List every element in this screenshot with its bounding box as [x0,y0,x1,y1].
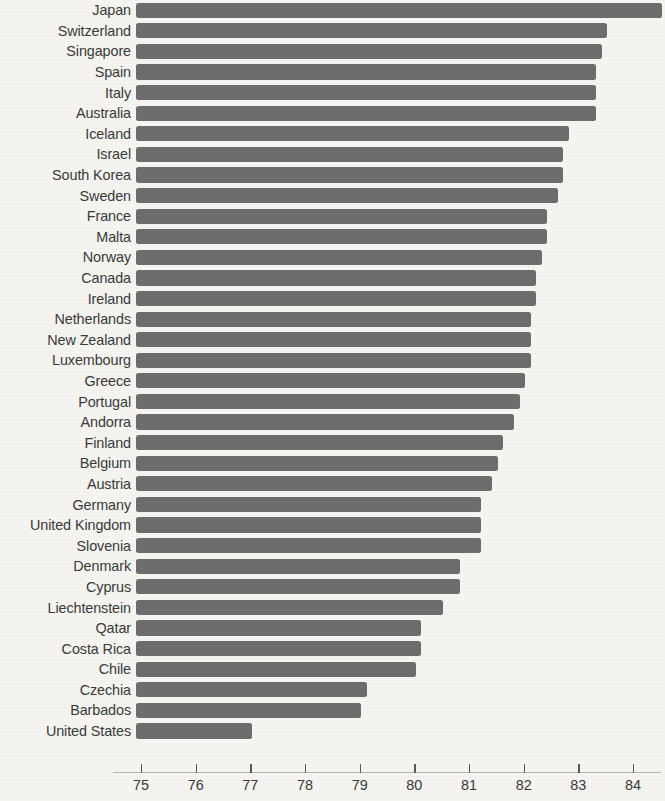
bar-track [136,659,665,680]
bar-fill [136,44,602,59]
bar-category-label: Japan [0,2,136,18]
bar-fill [136,332,531,347]
life-expectancy-bar-chart: JapanSwitzerlandSingaporeSpainItalyAustr… [0,0,665,801]
bar-track [136,494,665,515]
bar-category-label: Israel [0,146,136,162]
bar-fill [136,312,531,327]
bar-track [136,0,665,21]
bar-fill [136,147,563,162]
bar-category-label: United Kingdom [0,517,136,533]
bar-category-label: Greece [0,373,136,389]
x-axis-tick [414,764,415,773]
bar-row: Italy [0,82,665,103]
x-axis-tick [196,764,197,773]
bar-track [136,391,665,412]
bar-category-label: New Zealand [0,332,136,348]
x-axis-tick-label: 83 [570,777,586,793]
bar-row: United States [0,721,665,742]
bar-fill [136,85,596,100]
bar-track [136,62,665,83]
bar-category-label: Slovenia [0,538,136,554]
bar-track [136,330,665,351]
bar-track [136,206,665,227]
bar-fill [136,270,536,285]
bar-track [136,41,665,62]
bar-category-label: Malta [0,229,136,245]
bar-category-label: United States [0,723,136,739]
bar-track [136,185,665,206]
bar-row: Czechia [0,680,665,701]
bar-row: Norway [0,247,665,268]
bar-row: Slovenia [0,535,665,556]
bar-category-label: Canada [0,270,136,286]
bar-track [136,556,665,577]
bar-category-label: Spain [0,64,136,80]
bar-fill [136,106,596,121]
chart-plot-area: JapanSwitzerlandSingaporeSpainItalyAustr… [0,0,665,755]
bar-track [136,638,665,659]
bar-category-label: Austria [0,476,136,492]
bar-row: Liechtenstein [0,597,665,618]
bar-row: Malta [0,227,665,248]
bar-category-label: Barbados [0,702,136,718]
bar-category-label: Netherlands [0,311,136,327]
bar-row: Qatar [0,618,665,639]
bar-track [136,680,665,701]
bar-fill [136,435,503,450]
bar-category-label: Norway [0,249,136,265]
bar-fill [136,497,481,512]
x-axis-tick [141,764,142,773]
bar-row: Finland [0,432,665,453]
bar-category-label: Finland [0,435,136,451]
bar-fill [136,641,421,656]
bar-category-label: Denmark [0,558,136,574]
bar-track [136,721,665,742]
bar-row: Spain [0,62,665,83]
bar-fill [136,600,443,615]
bar-fill [136,414,514,429]
bar-row: Costa Rica [0,638,665,659]
bar-track [136,350,665,371]
bar-row: Andorra [0,412,665,433]
bar-track [136,700,665,721]
bar-row: France [0,206,665,227]
bar-fill [136,64,596,79]
x-axis-tick [305,764,306,773]
bar-category-label: Cyprus [0,579,136,595]
bar-row: Japan [0,0,665,21]
bar-category-label: Switzerland [0,23,136,39]
x-axis-tick [524,764,525,773]
bar-category-label: Sweden [0,188,136,204]
bar-category-label: Luxembourg [0,352,136,368]
bar-fill [136,188,558,203]
bar-row: Austria [0,474,665,495]
bar-fill [136,579,460,594]
bar-track [136,515,665,536]
bar-fill [136,250,542,265]
bar-row: Singapore [0,41,665,62]
x-axis-tick-label: 84 [625,777,641,793]
bar-category-label: Czechia [0,682,136,698]
bar-track [136,577,665,598]
x-axis-tick-label: 77 [242,777,258,793]
bar-row: South Korea [0,165,665,186]
x-axis-tick-label: 78 [297,777,313,793]
x-axis-tick [360,764,361,773]
x-axis: 75767778798081828384 [0,755,665,801]
x-axis-tick [250,764,251,773]
bar-category-label: Chile [0,661,136,677]
bar-fill [136,703,361,718]
bar-category-label: Belgium [0,455,136,471]
bar-row: Netherlands [0,309,665,330]
bar-track [136,21,665,42]
bar-fill [136,353,531,368]
bar-track [136,268,665,289]
bar-category-label: Andorra [0,414,136,430]
x-axis-tick-label: 80 [406,777,422,793]
bar-row: Iceland [0,124,665,145]
bar-track [136,474,665,495]
bar-row: Barbados [0,700,665,721]
bar-category-label: Costa Rica [0,641,136,657]
bar-row: Chile [0,659,665,680]
bar-category-label: Italy [0,85,136,101]
